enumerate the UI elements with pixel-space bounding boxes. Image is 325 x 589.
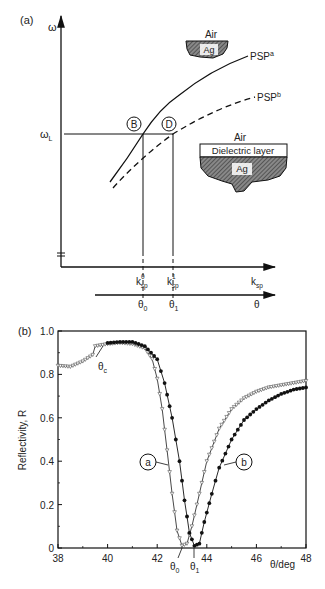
- data-point-a: [165, 449, 169, 452]
- x-tick-label: 44: [201, 553, 213, 564]
- data-point-b: [149, 351, 153, 355]
- data-point-b: [178, 459, 182, 463]
- data-point-b: [159, 369, 163, 373]
- data-point-b: [202, 520, 206, 524]
- panel-b: (b) 00.20.40.60.81.0 384042444648 Reflec…: [17, 325, 312, 574]
- data-point-b: [198, 542, 202, 546]
- theta-c-label: θc: [98, 361, 108, 374]
- data-point-a: [212, 440, 216, 443]
- data-point-b: [165, 393, 169, 397]
- data-point-a: [205, 460, 209, 463]
- y-tick-label: 0.4: [40, 456, 54, 467]
- data-point-b: [224, 452, 228, 456]
- panel-a-label: (a): [20, 14, 33, 26]
- data-point-b: [230, 438, 234, 442]
- theta0-marker-label: θ0: [170, 561, 180, 574]
- data-point-a: [163, 428, 167, 431]
- data-point-b: [264, 401, 268, 405]
- data-point-b: [185, 515, 189, 519]
- data-point-a: [207, 453, 211, 456]
- data-point-b: [170, 416, 174, 420]
- callout-b-label: b: [241, 457, 247, 468]
- svg-text:Ag: Ag: [203, 45, 214, 55]
- svg-text:Ag: Ag: [236, 163, 248, 174]
- inset-air-ag: Air Ag: [186, 29, 228, 58]
- data-point-b: [214, 479, 218, 483]
- data-point-b: [248, 413, 252, 417]
- data-point-b: [236, 428, 240, 432]
- data-point-b: [304, 386, 308, 390]
- data-point-a: [153, 367, 157, 370]
- data-point-b: [146, 348, 150, 352]
- data-point-b: [217, 466, 221, 470]
- data-point-b: [188, 531, 192, 535]
- data-point-a: [170, 492, 174, 495]
- inset-air-dielectric-ag: Air Dielectric layer Ag: [200, 132, 287, 192]
- theta1-marker-label: θ1: [190, 561, 200, 574]
- data-point-b: [207, 501, 211, 505]
- series-b-line: [108, 342, 306, 546]
- point-d-label: D: [165, 119, 172, 130]
- y-tick-label: 0.8: [40, 369, 54, 380]
- svg-text:Dielectric layer: Dielectric layer: [212, 145, 274, 156]
- data-point-a: [158, 392, 162, 395]
- data-point-a: [210, 447, 214, 450]
- data-point-b: [183, 498, 187, 502]
- ksp-axis-label: ksp: [251, 276, 263, 290]
- data-point-b: [174, 438, 178, 442]
- data-point-a: [178, 537, 182, 540]
- data-point-b: [227, 445, 231, 449]
- data-point-b: [210, 492, 214, 496]
- psp-a-label: PSPa: [250, 50, 274, 62]
- data-point-a: [173, 511, 177, 514]
- data-point-b: [251, 410, 255, 414]
- data-point-a: [203, 471, 207, 474]
- data-point-b: [245, 415, 249, 419]
- psp-b-label: PSPb: [257, 91, 281, 103]
- series-a: [56, 341, 308, 547]
- x-tick-label: 48: [300, 553, 312, 564]
- data-point-a: [215, 434, 219, 437]
- omega-L-label: ωL: [40, 128, 53, 142]
- data-point-b: [205, 511, 209, 515]
- data-point-b: [258, 405, 262, 409]
- data-point-b: [180, 479, 184, 483]
- ksp0-label: k0sp: [136, 273, 148, 290]
- data-point-a: [190, 525, 194, 528]
- point-b-label: B: [131, 119, 138, 130]
- theta-c-pointer: [96, 346, 103, 357]
- omega-axis-label: ω: [48, 21, 57, 33]
- y-ticks: 00.20.40.60.81.0: [40, 326, 62, 554]
- plot-frame: [58, 331, 306, 548]
- data-point-a: [150, 358, 154, 361]
- svg-text:Air: Air: [234, 132, 247, 143]
- y-tick-label: 0.2: [40, 500, 54, 511]
- data-point-b: [261, 403, 265, 407]
- data-point-b: [163, 381, 167, 385]
- y-tick-label: 0.6: [40, 413, 54, 424]
- y-tick-label: 1.0: [40, 326, 54, 337]
- data-point-b: [239, 423, 243, 427]
- svg-text:Air: Air: [205, 29, 218, 40]
- x-tick-label: 46: [251, 553, 263, 564]
- data-point-a: [217, 427, 221, 430]
- theta-axis-label: θ: [254, 299, 260, 310]
- x-axis-label: θ/deg: [270, 559, 295, 570]
- data-point-b: [233, 433, 237, 437]
- series-a-line: [58, 343, 306, 546]
- data-point-a: [195, 503, 199, 506]
- panel-a: (a) ω ωL B D PSPa PSPb Air: [20, 14, 287, 312]
- data-point-a: [168, 471, 172, 474]
- data-point-a: [175, 529, 179, 532]
- data-point-b: [152, 354, 156, 358]
- data-point-a: [155, 377, 159, 380]
- data-point-b: [242, 418, 246, 422]
- data-point-b: [220, 459, 224, 463]
- x-tick-label: 42: [152, 553, 164, 564]
- ksp1-label: k1sp: [167, 273, 179, 290]
- data-point-a: [193, 514, 197, 517]
- series-b: [106, 340, 308, 548]
- data-point-a: [198, 492, 202, 495]
- theta1-label: θ1: [169, 299, 179, 312]
- data-point-a: [200, 481, 204, 484]
